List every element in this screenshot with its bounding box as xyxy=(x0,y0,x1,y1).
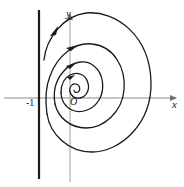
spiral-direction-arrow-2 xyxy=(66,45,78,51)
spiral-figure: y x O -1 xyxy=(0,0,184,187)
x-axis-label: x xyxy=(172,99,177,110)
spiral-direction-arrow-1 xyxy=(50,26,58,36)
y-axis-label: y xyxy=(66,8,71,19)
figure-canvas xyxy=(0,0,184,187)
x-tick-label-neg1: -1 xyxy=(26,98,34,108)
spiral-turn-2 xyxy=(46,44,124,128)
origin-label: O xyxy=(70,97,77,107)
spiral-curve-group xyxy=(44,13,151,152)
spiral-turn-1 xyxy=(44,13,151,152)
spiral-turn-5 xyxy=(70,84,80,93)
spiral-turn-4 xyxy=(61,73,89,98)
